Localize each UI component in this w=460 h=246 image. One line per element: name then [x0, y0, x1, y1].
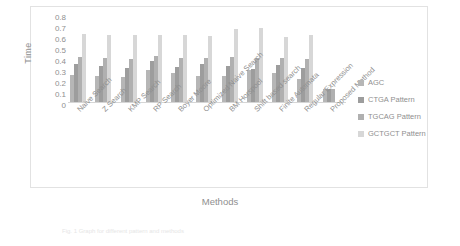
bar[interactable] — [158, 35, 162, 102]
legend-item[interactable]: CTGA Pattern — [358, 95, 458, 104]
bar[interactable] — [208, 36, 212, 102]
y-tick-label: 0.4 — [40, 58, 66, 66]
bar-chart-figure: Time 0.80.70.60.50.40.30.20.10 Naive Sea… — [0, 0, 460, 246]
y-tick-label: 0.5 — [40, 47, 66, 55]
legend-item[interactable]: TGCAG Pattern — [358, 112, 458, 121]
legend-label: GCTGCT Pattern — [368, 129, 426, 138]
y-tick-label: 0.3 — [40, 69, 66, 77]
legend-swatch-icon — [358, 114, 364, 120]
bar[interactable] — [284, 37, 288, 102]
legend-item[interactable]: GCTGCT Pattern — [358, 129, 458, 138]
y-tick-label: 0.2 — [40, 80, 66, 88]
bar[interactable] — [259, 28, 263, 102]
bar[interactable] — [309, 35, 313, 102]
y-axis-tick-labels: 0.80.70.60.50.40.30.20.10 — [40, 8, 66, 108]
y-tick-label: 0.8 — [40, 14, 66, 22]
legend-item[interactable]: AGC — [358, 78, 458, 87]
legend-label: TGCAG Pattern — [368, 112, 421, 121]
x-axis-tick-labels: Naive SearchZ SearchKMP SearchRP SearchB… — [68, 104, 368, 190]
bar[interactable] — [133, 35, 137, 102]
bar[interactable] — [183, 35, 187, 102]
y-tick-label: 0.7 — [40, 25, 66, 33]
bar[interactable] — [234, 29, 238, 102]
legend-swatch-icon — [358, 80, 364, 86]
legend-swatch-icon — [358, 131, 364, 137]
x-axis-title: Methods — [150, 196, 290, 207]
y-axis-title: Time — [23, 23, 33, 83]
bar[interactable] — [82, 34, 86, 102]
bar-group — [70, 14, 86, 102]
legend-swatch-icon — [358, 97, 364, 103]
y-tick-label: 0.6 — [40, 36, 66, 44]
figure-caption: Fig. 1 Graph for different pattern and m… — [62, 228, 302, 234]
legend-label: CTGA Pattern — [368, 95, 415, 104]
y-tick-label: 0.1 — [40, 91, 66, 99]
chart-legend: AGCCTGA PatternTGCAG PatternGCTGCT Patte… — [358, 78, 458, 146]
bar[interactable] — [107, 35, 111, 102]
y-tick-label: 0 — [40, 102, 66, 110]
legend-label: AGC — [368, 78, 384, 87]
